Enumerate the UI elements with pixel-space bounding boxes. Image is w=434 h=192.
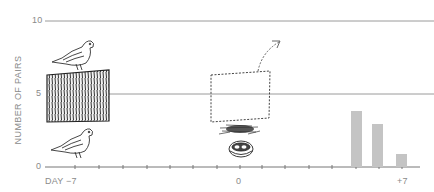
x-label-day-plus7: +7 xyxy=(397,176,408,186)
bar-day-plus7 xyxy=(396,154,407,167)
x-label-day-0: 0 xyxy=(236,176,241,186)
x-label-day-minus7: DAY −7 xyxy=(45,176,77,186)
nest-with-eggs-icon xyxy=(229,141,253,157)
y-tick-10: 10 xyxy=(32,15,42,25)
curved-arrow-icon xyxy=(258,42,279,71)
nest-material-icon xyxy=(219,125,260,134)
dashed-rectangle xyxy=(211,71,270,122)
bar-day-plus6 xyxy=(372,124,383,167)
dove-top-icon xyxy=(52,41,94,70)
y-tick-0: 0 xyxy=(36,161,41,171)
dove-bottom-icon xyxy=(51,129,93,158)
y-tick-5: 5 xyxy=(36,88,41,98)
chart-area: 10 5 0 NUMBER OF PAIRS DAY −7 0 +7 xyxy=(0,0,434,192)
y-axis-label: NUMBER OF PAIRS xyxy=(13,56,23,145)
hatched-rectangle xyxy=(47,70,109,122)
bar-day-plus5 xyxy=(351,111,362,167)
